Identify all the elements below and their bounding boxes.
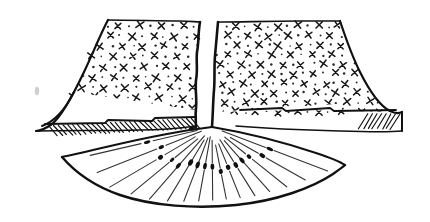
motif-dot-mark (270, 63, 273, 66)
motif-dot-mark (234, 101, 236, 103)
motif-dot-mark (243, 92, 245, 94)
motif-dot-mark (124, 56, 126, 58)
motif-dot-mark (332, 82, 335, 85)
motif-dot-mark (367, 91, 369, 93)
stray-ink-speck (35, 87, 39, 95)
motif-dot-mark (92, 66, 95, 69)
motif-dot-mark (222, 110, 224, 112)
motif-dot-mark (128, 25, 130, 27)
motif-dot-mark (226, 26, 228, 28)
motif-dot-mark (221, 92, 223, 94)
motif-dot-mark (343, 72, 346, 75)
motif-dot-mark (322, 55, 324, 57)
motif-dot-mark (294, 100, 296, 102)
motif-dot-mark (327, 111, 329, 113)
motif-dot-mark (149, 25, 152, 28)
motif-dot-mark (167, 75, 169, 77)
motif-dot-mark (218, 72, 220, 74)
motif-dot-mark (156, 65, 158, 67)
motif-dot-mark (187, 55, 190, 58)
motif-dot-mark (164, 56, 167, 59)
motif-dot-mark (127, 97, 129, 99)
motif-dot-mark (267, 26, 269, 28)
motif-dot-mark (240, 73, 242, 75)
motif-dot-mark (133, 45, 135, 47)
motif-dot-mark (181, 106, 183, 108)
motif-dot-mark (297, 34, 299, 36)
motif-dot-mark (344, 92, 346, 94)
motif-dot-mark (159, 86, 161, 88)
motif-dot-mark (307, 111, 309, 113)
motif-dot-mark (237, 36, 239, 38)
motif-dot-mark (335, 102, 337, 104)
motif-dot-mark (300, 53, 302, 55)
motif-dot-mark (250, 83, 252, 85)
motif-dot-mark (257, 53, 259, 55)
curtain-drape-illustration (0, 0, 430, 222)
motif-dot-mark (254, 101, 256, 103)
motif-dot-mark (171, 96, 173, 98)
motif-dot-mark (114, 66, 116, 68)
motif-dot-mark (314, 103, 316, 105)
motif-dot-mark (314, 83, 316, 85)
motif-dot-mark (135, 86, 137, 88)
motif-dot-mark (302, 91, 304, 93)
motif-dot-mark (357, 102, 359, 104)
right-panel-top-edge (218, 21, 340, 22)
motif-dot-mark (281, 53, 283, 55)
motif-dot-mark (101, 56, 103, 58)
motif-dot-mark (244, 26, 246, 28)
motif-dot-mark (310, 44, 312, 46)
motif-dot-mark (320, 35, 322, 37)
motif-dot-mark (191, 98, 193, 100)
motif-dot-mark (232, 81, 234, 83)
motif-dot-mark (247, 45, 249, 47)
motif-dot-mark (280, 73, 283, 76)
motif-dot-mark (269, 43, 272, 46)
motif-dot-mark (245, 112, 247, 114)
motif-dot-mark (189, 77, 192, 80)
motif-dot-mark (171, 24, 174, 27)
motif-dot-mark (145, 76, 147, 78)
motif-dot-mark (292, 83, 294, 85)
motif-dot-mark (107, 26, 109, 28)
motif-dot-mark (101, 76, 103, 78)
motif-dot-mark (313, 62, 315, 64)
motif-dot-mark (178, 87, 180, 89)
motif-dot-mark (286, 24, 288, 26)
motif-dot-mark (289, 45, 291, 47)
motif-dot-mark (261, 73, 263, 75)
motif-dot-mark (356, 82, 358, 84)
motif-dot-mark (186, 36, 188, 38)
motif-dot-mark (341, 54, 343, 56)
motif-dot-mark (332, 63, 335, 66)
motif-dot-mark (306, 24, 308, 26)
motif-dot-mark (341, 36, 343, 38)
motif-dot-mark (175, 46, 177, 48)
motif-dot-mark (285, 92, 287, 94)
motif-dot-mark (118, 34, 120, 36)
motif-dot-mark (292, 63, 295, 66)
motif-dot-mark (262, 93, 264, 95)
motif-dot-mark (133, 67, 135, 69)
motif-dot-mark (122, 77, 124, 79)
motif-dot-mark (225, 43, 227, 45)
motif-dot-mark (272, 82, 274, 84)
motif-dot-mark (275, 100, 278, 103)
motif-dot-mark (236, 52, 238, 54)
motif-dot-mark (92, 86, 94, 88)
motif-dot-mark (149, 96, 151, 98)
motif-dot-mark (328, 27, 330, 29)
motif-dot-mark (193, 26, 195, 28)
motif-dot-mark (325, 93, 327, 95)
motif-dot-mark (249, 64, 251, 66)
motif-dot-mark (162, 36, 164, 38)
illustration-root (0, 0, 430, 222)
motif-dot-mark (330, 43, 332, 45)
motif-dot-mark (258, 35, 260, 37)
motif-dot-mark (278, 34, 280, 36)
motif-dot-mark (141, 35, 143, 37)
motif-dot-mark (175, 67, 177, 69)
motif-dot-mark (302, 72, 304, 74)
motif-dot-mark (154, 44, 156, 46)
